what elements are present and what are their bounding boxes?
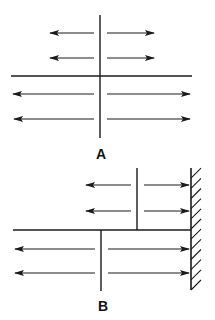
wall-hatch xyxy=(191,239,201,249)
figure-a-label: A xyxy=(96,146,106,162)
wall-hatch xyxy=(191,229,201,239)
wall-hatch xyxy=(191,178,201,188)
wall-hatch xyxy=(191,270,201,280)
figure-b-label: B xyxy=(98,298,108,314)
wall-hatch xyxy=(191,219,201,229)
wall-hatch xyxy=(191,260,201,270)
wall-hatch xyxy=(191,250,201,260)
figure-a xyxy=(11,15,192,138)
wall-hatch xyxy=(191,199,201,209)
wall-hatch xyxy=(191,189,201,199)
diagram-canvas: A B xyxy=(0,0,215,320)
figure-b xyxy=(13,168,201,291)
wall-hatch xyxy=(191,280,201,290)
wall-hatch xyxy=(191,209,201,219)
wall-hatch xyxy=(191,168,201,178)
